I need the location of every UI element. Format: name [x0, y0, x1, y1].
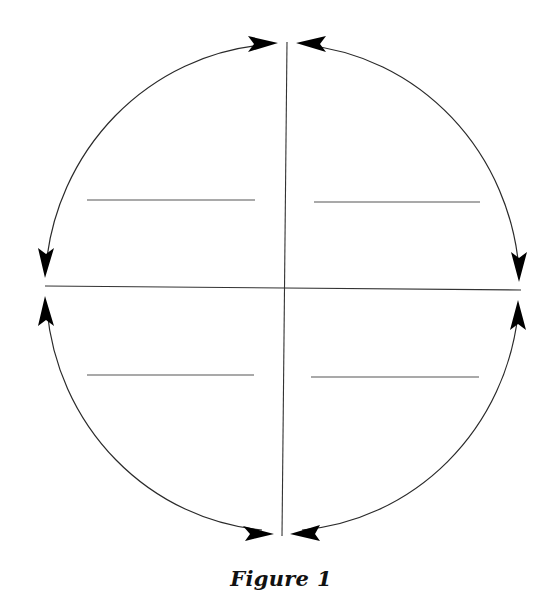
bottom-left-arc	[47, 310, 262, 530]
bottom-right-arc	[302, 314, 518, 530]
top-left-arc	[46, 45, 262, 266]
arrowhead-up-icon	[510, 300, 526, 330]
top-right-arc	[306, 45, 519, 270]
arrowhead-up-icon	[38, 296, 54, 326]
arrowhead-down-icon	[38, 248, 54, 278]
quadrant-cycle-diagram	[0, 0, 554, 601]
arrowhead-right-icon	[248, 36, 278, 52]
arrowhead-down-icon	[511, 252, 527, 282]
vertical-axis	[282, 42, 287, 536]
arrowhead-right-icon	[243, 526, 274, 541]
arrowhead-left-icon	[290, 525, 320, 541]
figure-caption: Figure 1	[0, 566, 554, 591]
arrowhead-left-icon	[296, 36, 326, 52]
horizontal-axis	[45, 286, 521, 290]
